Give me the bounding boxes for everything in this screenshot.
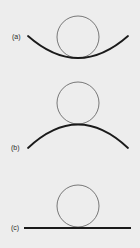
panel-c: [24, 185, 131, 228]
label-c: (c): [11, 224, 19, 232]
convex-surface-b: [28, 125, 128, 149]
label-a: (a): [12, 33, 21, 41]
circle-b: [57, 82, 99, 124]
panel-a: [28, 16, 128, 58]
label-b: (b): [11, 144, 20, 152]
panel-b: [28, 82, 128, 148]
concave-surface-a: [28, 36, 128, 58]
circle-c: [57, 185, 99, 227]
circle-a: [57, 16, 99, 58]
diagram-canvas: [0, 0, 140, 248]
curvature-diagram: (a) (b) (c): [0, 0, 140, 248]
